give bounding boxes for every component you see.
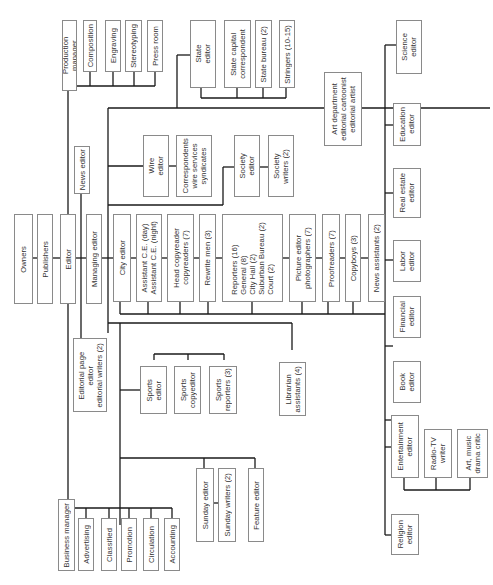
node-label: Rewrite men (3) <box>203 230 212 286</box>
node-label: Society editor <box>238 153 256 179</box>
node-label: Sports reporters (3) <box>214 368 232 411</box>
node-label: Promotion <box>125 527 134 563</box>
node-correspondents[interactable]: Correspondents wire services syndicates <box>176 135 212 197</box>
node-label: Copyboys (3) <box>349 235 358 281</box>
node-art-music-critic[interactable]: Art, music drama critic <box>457 429 488 478</box>
node-reporters[interactable]: Reporters (16) General (8) City Hall (2)… <box>222 214 283 302</box>
node-business-manager[interactable]: Business manager <box>58 499 75 571</box>
node-classified[interactable]: Classified <box>101 518 117 571</box>
node-city-editor[interactable]: City editor <box>113 214 131 302</box>
node-wire-editor[interactable]: Wire editor <box>143 135 169 197</box>
node-rewrite-men[interactable]: Rewrite men (3) <box>199 214 216 302</box>
node-advertising[interactable]: Advertising <box>78 518 94 571</box>
node-accounting[interactable]: Accounting <box>164 518 180 571</box>
node-label: Managing editor <box>90 231 99 287</box>
node-owners[interactable]: Owners <box>14 214 33 304</box>
node-society-writers[interactable]: Society writers (2) <box>268 135 294 197</box>
node-religion-editor[interactable]: Religion editor <box>391 514 419 555</box>
node-label: Science editor <box>400 33 418 61</box>
node-label: Entertainment editor <box>396 422 414 471</box>
node-proofreaders[interactable]: Proofreaders (7) <box>322 214 340 302</box>
node-label: Society writers (2) <box>272 149 290 184</box>
node-librarian[interactable]: Librarian assistants (4) <box>279 362 306 416</box>
node-label: Stringers (10-15) <box>283 25 292 84</box>
node-book-editor[interactable]: Book editor <box>393 361 421 403</box>
node-publishers[interactable]: Publishers <box>37 214 53 304</box>
node-label: News editor <box>78 149 87 190</box>
node-sports-editor[interactable]: Sports editor <box>140 366 167 414</box>
node-label: Owners <box>19 246 28 273</box>
newspaper-org-chart: Owners Publishers Editor Managing editor… <box>0 0 493 585</box>
node-science-editor[interactable]: Science editor <box>396 20 422 74</box>
node-circulation[interactable]: Circulation <box>143 518 159 571</box>
node-state-editor[interactable]: State editor <box>190 20 216 88</box>
node-head-copyreader[interactable]: Head copyreader copyreaders (7) <box>167 214 194 302</box>
node-label: State bureau (2) <box>259 26 268 82</box>
node-label: Sports copyeditor <box>179 372 197 408</box>
node-label: Publishers <box>41 241 50 277</box>
node-label: Art, music drama critic <box>464 433 482 473</box>
node-labor-editor[interactable]: Labor editor <box>393 240 421 282</box>
node-label: City editor <box>118 240 127 275</box>
node-promotion[interactable]: Promotion <box>121 518 137 571</box>
node-financial-editor[interactable]: Financial editor <box>393 296 421 338</box>
node-sports-copyeditor[interactable]: Sports copyeditor <box>174 366 201 414</box>
node-label: Head copyreader copyreaders (7) <box>172 228 190 288</box>
node-label: Advertising <box>82 525 91 564</box>
node-sunday-writers[interactable]: Sunday writers (2) <box>218 468 236 542</box>
node-label: Assistant C.E. (day) Assistant C.E. (nig… <box>140 221 158 295</box>
node-copyboys[interactable]: Copyboys (3) <box>345 214 361 302</box>
node-label: Art department editorial cartoonist edit… <box>330 77 357 141</box>
node-state-capital-correspondent[interactable]: State capital correspondent <box>224 20 251 88</box>
node-managing-editor[interactable]: Managing editor <box>86 214 102 304</box>
node-label: Real estate editor <box>398 173 416 213</box>
node-news-editor[interactable]: News editor <box>74 146 90 194</box>
node-label: Sunday writers (2) <box>223 473 232 536</box>
node-label: Librarian assistants (4) <box>284 366 302 413</box>
node-label: Stereotyping <box>129 24 138 68</box>
node-label: Correspondents wire services syndicates <box>181 138 208 193</box>
node-label: State capital correspondent <box>229 29 247 79</box>
node-stringers[interactable]: Stringers (10-15) <box>279 20 295 88</box>
node-label: Picture editor photographers (7) <box>294 227 312 289</box>
node-label: Radio-TV writer <box>429 437 447 470</box>
node-assistant-city-editor[interactable]: Assistant C.E. (day) Assistant C.E. (nig… <box>136 214 162 302</box>
node-feature-editor[interactable]: Feature editor <box>248 468 264 542</box>
node-label: Religion editor <box>396 520 414 548</box>
node-label: Reporters (16) General (8) City Hall (2)… <box>230 222 275 295</box>
node-label: Sports editor <box>145 379 163 402</box>
node-press-room[interactable]: Press room <box>147 20 163 72</box>
node-label: Circulation <box>147 526 156 563</box>
node-sunday-editor[interactable]: Sunday editor <box>196 468 214 542</box>
node-label: Education editor <box>398 107 416 142</box>
node-label: Press room <box>151 26 160 66</box>
node-label: Engraving <box>109 28 118 63</box>
node-art-department[interactable]: Art department editorial cartoonist edit… <box>324 72 362 146</box>
node-radio-tv-writer[interactable]: Radio-TV writer <box>424 429 452 478</box>
node-education-editor[interactable]: Education editor <box>393 103 421 146</box>
node-label: Proofreaders (7) <box>327 230 336 287</box>
node-label: State editor <box>194 44 212 64</box>
node-label: Accounting <box>168 525 177 564</box>
node-label: Book editor <box>398 372 416 392</box>
node-society-editor[interactable]: Society editor <box>234 135 260 197</box>
node-composition[interactable]: Composition <box>83 20 97 72</box>
node-entertainment-editor[interactable]: Entertainment editor <box>391 415 419 478</box>
node-label: Financial editor <box>398 301 416 332</box>
node-news-assistants[interactable]: News assistants (2) <box>368 214 385 302</box>
node-label: Composition <box>86 24 95 67</box>
node-label: Editorial page editor editorial writers … <box>77 343 104 408</box>
node-sports-reporters[interactable]: Sports reporters (3) <box>209 366 237 414</box>
node-editor[interactable]: Editor <box>60 214 76 304</box>
node-label: News assistants (2) <box>372 224 381 292</box>
node-picture-editor[interactable]: Picture editor photographers (7) <box>289 214 316 302</box>
node-editorial-page-editor[interactable]: Editorial page editor editorial writers … <box>73 338 107 412</box>
node-stereotyping[interactable]: Stereotyping <box>125 20 142 72</box>
node-label: Production manager <box>62 21 77 90</box>
node-label: Editor <box>64 249 73 269</box>
node-production-manager[interactable]: Production manager <box>62 20 77 91</box>
node-real-estate-editor[interactable]: Real estate editor <box>393 168 421 218</box>
node-engraving[interactable]: Engraving <box>105 20 121 72</box>
node-state-bureau[interactable]: State bureau (2) <box>255 20 272 88</box>
node-label: Business manager <box>62 503 71 568</box>
